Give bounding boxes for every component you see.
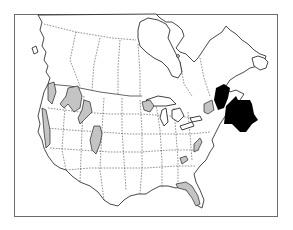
belcher-islands xyxy=(177,55,180,58)
range-map xyxy=(0,0,293,230)
